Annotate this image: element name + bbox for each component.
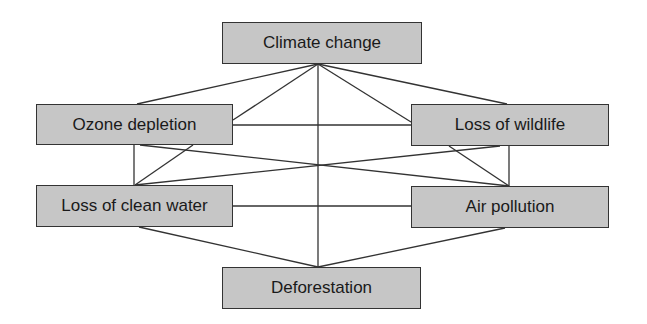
node-climate-change: Climate change xyxy=(222,22,422,64)
node-label: Climate change xyxy=(263,33,381,53)
node-loss-of-clean-water: Loss of clean water xyxy=(36,185,233,227)
node-ozone-depletion: Ozone depletion xyxy=(36,104,233,145)
node-air-pollution: Air pollution xyxy=(411,186,609,228)
edge-climate-ozone xyxy=(233,64,318,120)
node-label: Deforestation xyxy=(271,278,372,298)
edge-climate-wildlife xyxy=(318,64,507,104)
edge-air-deforest xyxy=(318,228,505,267)
edge-climate-wildlife xyxy=(318,64,411,122)
edge-climate-ozone xyxy=(137,64,318,104)
node-label: Loss of wildlife xyxy=(455,115,566,135)
node-deforestation: Deforestation xyxy=(222,267,421,309)
edge-water-deforest xyxy=(139,227,318,267)
climate-issues-diagram: Climate change Ozone depletion Loss of w… xyxy=(0,0,647,324)
node-label: Ozone depletion xyxy=(73,115,197,135)
edge-ozone-water xyxy=(135,145,193,185)
node-loss-of-wildlife: Loss of wildlife xyxy=(411,104,609,146)
node-label: Air pollution xyxy=(466,197,555,217)
node-label: Loss of clean water xyxy=(61,196,207,216)
